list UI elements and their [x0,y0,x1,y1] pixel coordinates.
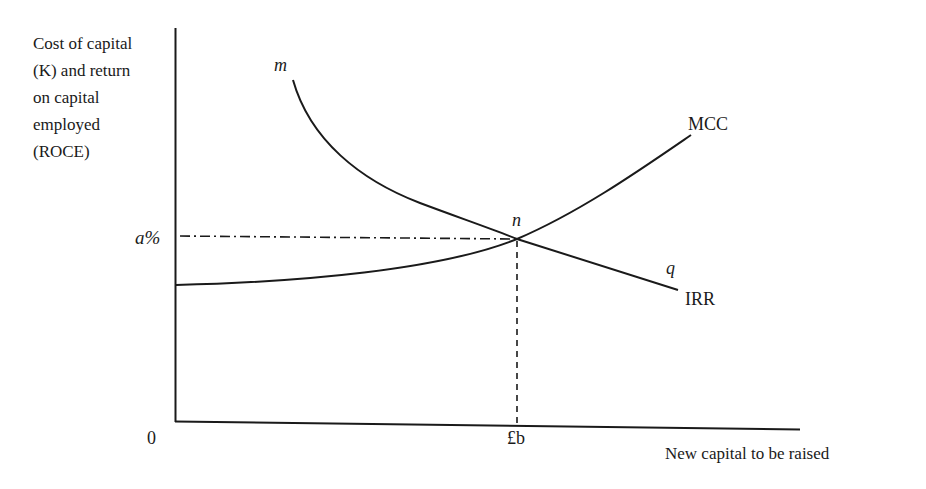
curve-label-mcc: MCC [688,114,728,134]
curve-label-irr: IRR [685,289,715,309]
x-axis-label: New capital to be raised [665,444,830,463]
point-label-n: n [512,210,521,230]
x-marker-b: £b [507,428,525,448]
y-marker-a-percent: a% [135,227,160,248]
x-axis [175,422,800,430]
diagram-canvas: m n q MCC IRR a% 0 £b New capital to be … [0,0,926,489]
a-percent-guide-line [180,236,515,239]
point-label-m: m [274,55,287,75]
mcc-curve [176,135,691,285]
irr-curve [293,80,678,290]
origin-label: 0 [147,428,156,448]
point-label-q: q [666,258,675,278]
